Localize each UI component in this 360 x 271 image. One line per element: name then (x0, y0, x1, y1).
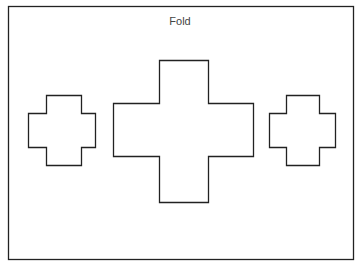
diagram-canvas (0, 0, 360, 271)
center-cross (114, 61, 254, 203)
right-cross (270, 96, 336, 166)
left-cross (29, 96, 96, 166)
fold-frame (9, 7, 354, 260)
fold-label: Fold (0, 15, 360, 27)
